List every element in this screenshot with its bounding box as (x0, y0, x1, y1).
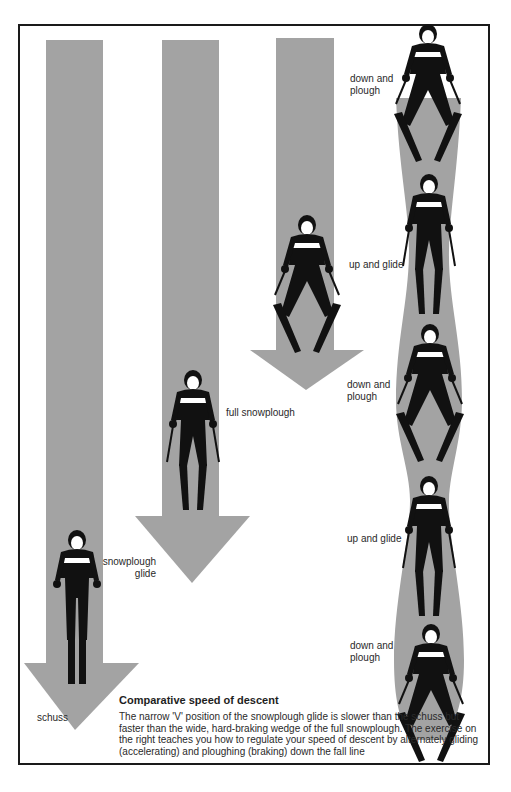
caption: Comparative speed of descent The narrow … (119, 694, 484, 757)
arrow-snowplough-glide (135, 40, 250, 583)
label-exercise-2: up and glide (349, 259, 404, 271)
caption-title: Comparative speed of descent (119, 694, 484, 706)
label-exercise-5a: down and (350, 640, 393, 652)
illustration (0, 0, 511, 792)
label-schuss: schuss (37, 712, 68, 724)
label-exercise-3a: down and (347, 379, 390, 391)
label-snowplough-glide-2: glide (96, 568, 156, 580)
arrow-full-snowplough (250, 38, 364, 390)
label-exercise-1b: plough (350, 85, 380, 97)
label-exercise-5b: plough (350, 652, 380, 664)
label-full-snowplough: full snowplough (226, 407, 295, 419)
caption-body: The narrow 'V' position of the snowploug… (119, 711, 484, 757)
label-exercise-4: up and glide (347, 533, 402, 545)
label-snowplough-glide-1: snowplough (96, 556, 156, 568)
label-exercise-1a: down and (350, 73, 393, 85)
label-exercise-3b: plough (347, 391, 377, 403)
